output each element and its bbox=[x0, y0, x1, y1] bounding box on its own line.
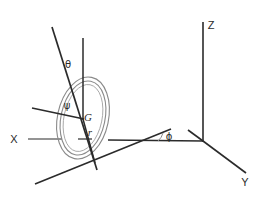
y-axis-back-stub bbox=[188, 130, 203, 141]
theta-angle-label: θ bbox=[65, 59, 71, 70]
radius-label: r bbox=[88, 126, 93, 138]
spin-axis-line bbox=[52, 27, 97, 170]
z-axis-label: Z bbox=[208, 19, 215, 31]
psi-angle-label: ψ bbox=[64, 100, 71, 111]
y-axis-line bbox=[203, 141, 246, 173]
psi-reference-line bbox=[32, 108, 84, 119]
center-of-mass-label: G bbox=[84, 111, 92, 123]
y-axis-label: Y bbox=[241, 176, 249, 188]
diagram-canvas: Z Y X θ ψ ϕ G r bbox=[0, 0, 269, 197]
x-axis-label: X bbox=[10, 133, 18, 145]
phi-angle-label: ϕ bbox=[166, 131, 173, 142]
x-axis-dash-segment-3 bbox=[108, 140, 203, 141]
gyroscope-diagram-figure: Z Y X θ ψ ϕ G r bbox=[0, 0, 269, 197]
